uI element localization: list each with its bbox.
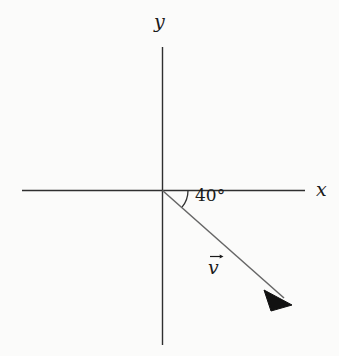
vector-label: v [208,252,232,278]
y-axis-label: y [154,12,165,31]
coordinate-axes-canvas [0,0,339,356]
vector-shaft [163,191,285,299]
vector-diagram-figure: y x 40° v [0,0,339,356]
angle-arc [182,191,188,208]
vector-label-glyph: v [208,258,219,277]
x-axis-label: x [316,180,327,199]
angle-label: 40° [195,187,225,204]
